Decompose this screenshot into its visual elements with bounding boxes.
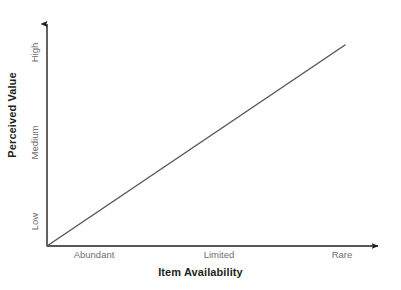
x-tick-label-abundant: Abundant: [54, 249, 134, 260]
x-tick-label-rare: Rare: [302, 249, 382, 260]
data-line-perceived-value: [47, 45, 345, 246]
y-axis-title: Perceived Value: [0, 0, 24, 230]
y-tick-label-medium: Medium: [26, 119, 44, 165]
y-axis-title-text: Perceived Value: [6, 72, 18, 157]
y-tick-label-low: Low: [26, 198, 44, 244]
y-tick-label-high: High: [26, 29, 44, 75]
y-tick-high-text: High: [30, 42, 41, 62]
x-axis-title: Item Availability: [0, 266, 401, 278]
y-tick-medium-text: Medium: [30, 125, 41, 159]
chart-container: Perceived Value High Medium Low Abundant…: [0, 0, 401, 290]
x-tick-label-limited: Limited: [179, 249, 259, 260]
chart-plot-area: [0, 0, 401, 290]
y-tick-low-text: Low: [30, 212, 41, 229]
